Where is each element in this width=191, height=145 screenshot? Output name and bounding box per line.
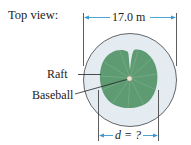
baseball-label: Baseball <box>32 89 73 101</box>
diagram-title: Top view: <box>8 9 58 21</box>
baseball-icon <box>127 76 132 81</box>
dimension-label-d: d = ? <box>115 129 141 141</box>
arrowhead-icon <box>99 134 104 138</box>
arrowhead-icon <box>171 16 176 20</box>
arrowhead-icon <box>84 16 89 20</box>
raft-label: Raft <box>47 68 68 80</box>
dimension-label-pool: 17.0 m <box>112 11 145 23</box>
arrowhead-icon <box>153 134 158 138</box>
